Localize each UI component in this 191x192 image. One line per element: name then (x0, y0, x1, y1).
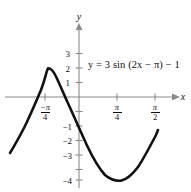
x-tick-label-neg-pi-over-4: −π 4 (34, 103, 56, 121)
y-tick-label-3: 3 (66, 49, 71, 59)
function-graph: 3 2 1 −1 −2 −3 −4 y x −π 4 π 4 π 2 y = 3… (0, 0, 191, 192)
y-axis-label: y (76, 11, 82, 22)
y-tick-label-neg1: −1 (62, 122, 72, 132)
x-tick-label-pi-over-4: π 4 (106, 103, 128, 121)
x-tick-pi4-denominator: 4 (106, 113, 128, 121)
y-axis-arrow (76, 23, 83, 30)
y-tick-label-2: 2 (66, 64, 71, 74)
x-axis (5, 94, 180, 101)
graph-canvas: 3 2 1 −1 −2 −3 −4 y x (0, 0, 191, 192)
y-tick-label-neg4: −4 (62, 176, 72, 186)
x-tick-pi2-numerator: π (144, 103, 166, 111)
y-axis (76, 23, 83, 188)
x-tick-pi4-numerator: π (106, 103, 128, 111)
x-tick-neg-pi-denominator: 4 (34, 113, 56, 121)
x-axis-arrow (172, 94, 180, 101)
equation-annotation: y = 3 sin (2x − π) − 1 (88, 59, 180, 70)
y-tick-label-neg3: −3 (62, 151, 72, 161)
sine-curve (10, 68, 158, 180)
x-tick-pi2-denominator: 2 (144, 113, 166, 121)
x-tick-label-pi-over-2: π 2 (144, 103, 166, 121)
x-tick-neg-pi-numerator: −π (34, 103, 56, 111)
y-tick-label-neg2: −2 (62, 136, 72, 146)
y-tick-label-1: 1 (66, 78, 71, 88)
x-axis-label: x (180, 91, 186, 102)
